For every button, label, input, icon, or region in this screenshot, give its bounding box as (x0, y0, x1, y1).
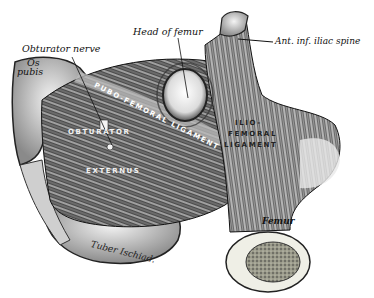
label-externus: EXTERNUS (86, 168, 141, 175)
label-ant-inf-iliac-spine: Ant. inf. iliac spine (275, 37, 360, 46)
label-ilio: ILIO- (235, 120, 262, 127)
label-pubis: pubis (17, 67, 43, 77)
label-obturator-nerve: Obturator nerve (22, 44, 100, 54)
label-head-of-femur: Head of femur (133, 27, 203, 37)
label-obturator: OBTURATOR (68, 129, 131, 136)
label-femoral: FEMORAL (228, 131, 277, 138)
femur-marrow (246, 242, 300, 282)
head-of-femur (163, 69, 207, 121)
label-ligament: LIGAMENT (224, 142, 277, 149)
greater-trochanter (300, 138, 340, 188)
label-femur: Femur (262, 217, 294, 226)
